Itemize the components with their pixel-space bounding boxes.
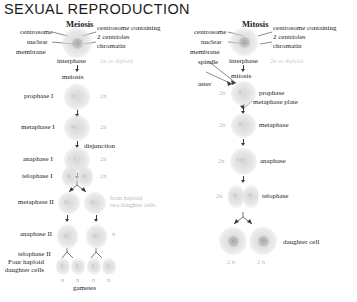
- label-centrosome-containing-mitosis: centrosome containing: [273, 24, 337, 32]
- nucleus-icon: [72, 38, 83, 49]
- cell-anaphase-2-right: (): [86, 224, 107, 249]
- cell-metaphase-2-right: )(: [84, 192, 106, 214]
- label-centrosome-meiosis: centrosome: [20, 28, 52, 36]
- cell-gamete-4: (: [102, 258, 116, 275]
- ploidy-interphase-meiosis: 2n or diploid: [100, 57, 133, 64]
- cell-anaphase-2-left: (): [57, 224, 78, 249]
- label-centrosome-containing-meiosis: centrosome containing: [97, 24, 161, 32]
- label-centrosome-mitosis: centrosome: [194, 28, 226, 36]
- label-two-centrioles-mitosis: 2 centrioles: [273, 33, 305, 41]
- stage-label-daughter-cell: daughter cell: [283, 238, 319, 246]
- ploidy-interphase-mitosis: 2n or diploid: [270, 57, 303, 64]
- ploidy-gamete-3: n: [92, 276, 95, 283]
- note-daughter-line2: two daughter cells: [110, 201, 155, 208]
- cell-gamete-1: (: [56, 258, 70, 275]
- stage-label-telophase-mitosis: telophase: [262, 192, 288, 200]
- cell-telophase-1-left: )(: [62, 166, 78, 188]
- cell-telophase-1-right: )(: [77, 166, 93, 188]
- stage-label-prophase-1: prophase I: [24, 92, 53, 100]
- cell-daughter-right: [249, 227, 277, 255]
- arrow-head: [94, 219, 98, 222]
- cell-interphase-meiosis: [62, 28, 92, 58]
- label-nuclear-mitosis: nuclear: [201, 38, 222, 46]
- stage-label-metaphase-2: metaphase II: [18, 198, 54, 206]
- cell-metaphase-2-left: )(: [58, 192, 80, 214]
- ploidy-telophase-1: 2n: [100, 172, 106, 179]
- nucleus-icon: [228, 236, 239, 247]
- leader-lines: [0, 0, 357, 302]
- ploidy-gamete-1: n: [61, 276, 64, 283]
- cell-telophase-mitosis-left: )(: [228, 184, 244, 209]
- stage-label-anaphase-2: anaphase II: [20, 230, 52, 238]
- ploidy-daughter-left: 2 n: [227, 258, 235, 265]
- label-aster-mitosis: aster: [198, 80, 211, 88]
- ploidy-anaphase-1: 2n: [100, 155, 106, 162]
- ploidy-gamete-4: n: [107, 276, 110, 283]
- nucleus-icon: [239, 37, 250, 48]
- label-spindle-mitosis: spindle: [198, 58, 218, 66]
- ploidy-anaphase-2: n: [112, 230, 115, 237]
- label-membrane-mitosis: membrane: [190, 48, 220, 56]
- nucleus-icon: [258, 236, 269, 247]
- cell-gamete-2: (: [71, 258, 85, 275]
- cell-interphase-mitosis: [230, 28, 258, 56]
- arrow-head: [65, 219, 69, 222]
- label-gametes: gametes: [73, 284, 96, 292]
- stage-label-mitosis-process: mitosis: [231, 72, 251, 80]
- cell-daughter-left: [219, 227, 247, 255]
- cell-metaphase-mitosis: )|(: [231, 113, 256, 138]
- cell-telophase-mitosis-right: )(: [243, 184, 259, 209]
- ploidy-metaphase-mitosis: 2n: [219, 121, 225, 128]
- ploidy-prophase-1: 2n: [100, 92, 106, 99]
- ploidy-daughter-right: 2 n: [257, 258, 265, 265]
- label-four-haploid-line2: daughter cells: [5, 266, 44, 274]
- stage-label-interphase-meiosis: interphase: [57, 57, 86, 65]
- label-four-haploid-line1: Four haploid: [8, 258, 44, 266]
- stage-label-metaphase-mitosis: metaphase: [259, 121, 289, 129]
- label-metaphase-plate: metaphase plate: [253, 98, 298, 106]
- cell-metaphase-1: )|(: [64, 115, 90, 141]
- ploidy-prophase-mitosis: 2n: [219, 89, 225, 96]
- stage-label-metaphase-1: metaphase I: [21, 123, 55, 131]
- ploidy-metaphase-1: 2n: [100, 123, 106, 130]
- label-membrane-meiosis: membrane: [16, 48, 46, 56]
- cell-anaphase-mitosis: )( )(: [230, 148, 257, 175]
- ploidy-gamete-2: n: [76, 276, 79, 283]
- stage-label-telophase-2: telophase II: [18, 250, 51, 258]
- stage-label-meiosis-process: meiosis: [62, 73, 83, 81]
- label-chromatin-mitosis: chromatin: [273, 42, 301, 50]
- stage-label-anaphase-1: anaphase I: [23, 155, 53, 163]
- ploidy-anaphase-mitosis: 2n: [218, 157, 224, 164]
- stage-label-prophase-mitosis: prophase: [259, 89, 284, 97]
- stage-label-anaphase-mitosis: anaphase: [260, 157, 286, 165]
- cell-gamete-3: (: [87, 258, 101, 275]
- label-chromatin-meiosis: chromatin: [97, 42, 125, 50]
- stage-label-interphase-mitosis: interphase: [229, 57, 258, 65]
- stage-label-telophase-1: telophase I: [22, 172, 53, 180]
- arrow-head: [75, 69, 79, 72]
- arrow-head: [241, 143, 245, 146]
- ploidy-telophase-mitosis: 2n: [216, 192, 222, 199]
- label-two-centrioles-meiosis: 2 centrioles: [97, 33, 129, 41]
- label-disjunction: disjunction: [84, 142, 115, 150]
- label-nuclear-meiosis: nuclear: [27, 38, 48, 46]
- page-title: SEXUAL REPRODUCTION: [4, 1, 190, 17]
- arrow-head: [241, 180, 245, 183]
- cell-prophase-1: )(: [64, 84, 90, 110]
